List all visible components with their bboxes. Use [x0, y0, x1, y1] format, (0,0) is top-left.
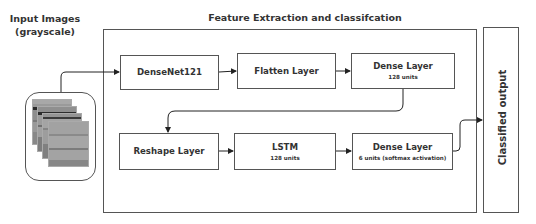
arrow-dense2-to-output [453, 120, 482, 151]
arrow-densenet-to-flatten [219, 71, 236, 72]
connector-arrows [0, 0, 536, 224]
arrow-dense1-to-reshape [168, 89, 403, 132]
arrow-input-to-densenet [61, 72, 119, 92]
